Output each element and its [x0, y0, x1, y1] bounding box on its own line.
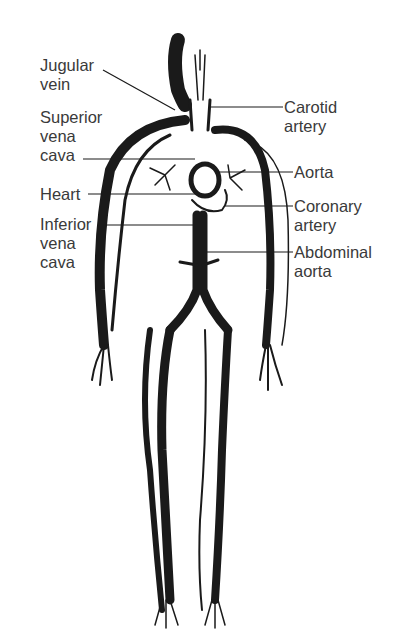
label-jugular-vein: Jugular vein [40, 56, 94, 94]
right-arm-artery [215, 130, 270, 346]
label-inferior-vena-cava: Inferior vena cava [40, 215, 91, 272]
label-superior-vena-cava: Superior vena cava [40, 108, 102, 165]
label-carotid-artery: Carotid artery [284, 98, 337, 136]
heart-shape [191, 164, 219, 196]
left-leg-vein [162, 330, 170, 600]
label-aorta: Aorta [294, 163, 333, 182]
abdominal-aorta-vessel [170, 215, 228, 330]
right-leg-artery [215, 330, 228, 600]
circulatory-figure [0, 0, 417, 642]
label-abdominal-aorta: Abdominal aorta [294, 243, 372, 281]
label-heart: Heart [40, 185, 80, 204]
head-vessel [175, 40, 185, 105]
label-coronary-artery: Coronary artery [294, 197, 362, 235]
leader-jugular [103, 70, 175, 110]
